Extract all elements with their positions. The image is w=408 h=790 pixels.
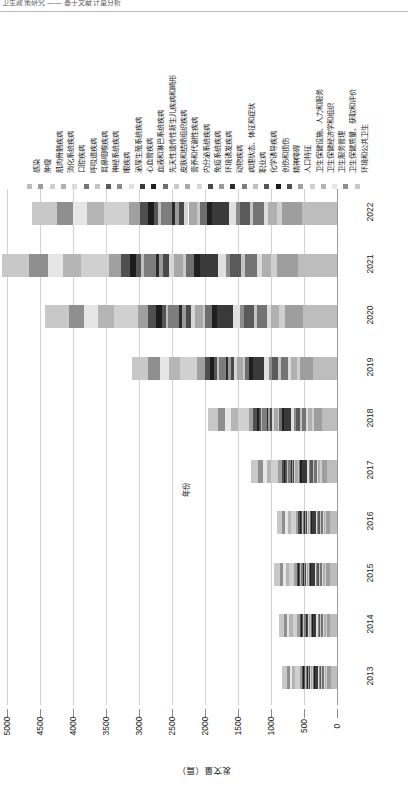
legend-item[interactable]: 先天性遗传性新生儿疾病和畸形 (162, 14, 173, 189)
bar-segment[interactable] (306, 614, 307, 637)
bar-segment[interactable] (310, 511, 311, 534)
legend-item[interactable]: 人口特征 (297, 14, 308, 189)
bar-segment[interactable] (267, 460, 272, 483)
bar-segment[interactable] (214, 357, 217, 380)
bar-segment[interactable] (307, 666, 308, 689)
bar-segment[interactable] (263, 460, 267, 483)
bar-segment[interactable] (322, 408, 337, 431)
bar-segment[interactable] (234, 357, 237, 380)
bar-segment[interactable] (316, 614, 317, 637)
bar-segment[interactable] (300, 666, 302, 689)
bar-segment[interactable] (323, 614, 324, 637)
bar-segment[interactable] (274, 563, 279, 586)
bar-segment[interactable] (254, 305, 257, 328)
bar-segment[interactable] (302, 666, 304, 689)
bar-segment[interactable] (312, 408, 314, 431)
bar-segment[interactable] (226, 357, 228, 380)
bar-segment[interactable] (297, 563, 299, 586)
bar-segment[interactable] (302, 511, 303, 534)
bar-segment[interactable] (277, 254, 298, 277)
bar-segment[interactable] (303, 614, 305, 637)
bar-segment[interactable] (175, 202, 179, 225)
bar-segment[interactable] (144, 254, 156, 277)
bar-segment[interactable] (251, 460, 258, 483)
bar-segment[interactable] (318, 460, 320, 483)
bar-segment[interactable] (301, 511, 302, 534)
bar-segment[interactable] (304, 563, 305, 586)
bar-segment[interactable] (320, 511, 321, 534)
bar-segment[interactable] (305, 666, 307, 689)
bar-segment[interactable] (284, 614, 287, 637)
bar-segment[interactable] (48, 254, 63, 277)
bar-segment[interactable] (302, 460, 307, 483)
bar-segment[interactable] (309, 666, 310, 689)
bar-segment[interactable] (217, 305, 233, 328)
bar-segment[interactable] (312, 614, 313, 637)
bar-segment[interactable] (268, 202, 276, 225)
bar-segment[interactable] (278, 357, 280, 380)
bar-segment[interactable] (302, 408, 307, 431)
legend-item[interactable]: 职业病 (252, 14, 263, 189)
bar-segment[interactable] (98, 305, 114, 328)
bar-segment[interactable] (307, 511, 308, 534)
bar-segment[interactable] (321, 614, 323, 637)
bar-segment[interactable] (303, 614, 304, 637)
bar-segment[interactable] (140, 202, 148, 225)
bar-segment[interactable] (288, 511, 291, 534)
bar-segment[interactable] (298, 460, 300, 483)
bar-segment[interactable] (303, 563, 304, 586)
bar-segment[interactable] (87, 202, 104, 225)
bar-segment[interactable] (287, 614, 290, 637)
bar-segment[interactable] (321, 666, 322, 689)
bar-segment[interactable] (300, 511, 301, 534)
bar-segment[interactable] (302, 511, 304, 534)
legend-item[interactable]: 口腔疾病 (71, 14, 82, 189)
bar-segment[interactable] (141, 254, 144, 277)
bar-segment[interactable] (291, 511, 296, 534)
bar-segment[interactable] (292, 666, 295, 689)
bar-segment[interactable] (81, 254, 108, 277)
bar-segment[interactable] (32, 202, 57, 225)
bar-segment[interactable] (287, 666, 290, 689)
bar-segment[interactable] (314, 460, 317, 483)
bar-segment[interactable] (258, 460, 263, 483)
bar-segment[interactable] (271, 305, 279, 328)
bar-segment[interactable] (166, 305, 169, 328)
bar-segment[interactable] (294, 563, 296, 586)
bar-segment[interactable] (319, 614, 321, 637)
bar-segment[interactable] (148, 202, 154, 225)
bar-segment[interactable] (326, 666, 327, 689)
bar-segment[interactable] (312, 511, 315, 534)
bar-segment[interactable] (264, 202, 268, 225)
bar-segment[interactable] (293, 614, 298, 637)
bar-segment[interactable] (318, 666, 319, 689)
bar-segment[interactable] (279, 408, 282, 431)
bar-segment[interactable] (180, 357, 197, 380)
bar-segment[interactable] (319, 666, 320, 689)
bar-segment[interactable] (310, 563, 311, 586)
bar-segment[interactable] (291, 460, 292, 483)
legend-item[interactable]: 免疫系统疾病 (207, 14, 218, 189)
bar-segment[interactable] (129, 202, 140, 225)
bar-segment[interactable] (287, 460, 290, 483)
bar-segment[interactable] (282, 408, 284, 431)
bar-segment[interactable] (183, 254, 186, 277)
bar-segment[interactable] (295, 460, 297, 483)
bar-segment[interactable] (136, 254, 141, 277)
bar-segment[interactable] (302, 202, 337, 225)
bar-segment[interactable] (2, 254, 29, 277)
bar-segment[interactable] (291, 460, 292, 483)
bar-segment[interactable] (228, 357, 231, 380)
bar-segment[interactable] (294, 408, 296, 431)
bar-segment[interactable] (310, 460, 313, 483)
bar-segment[interactable] (203, 305, 206, 328)
bar-segment[interactable] (267, 408, 268, 431)
bar-segment[interactable] (306, 563, 307, 586)
bar-segment[interactable] (172, 202, 175, 225)
bar-segment[interactable] (309, 511, 310, 534)
bar-segment[interactable] (245, 357, 250, 380)
bar-segment[interactable] (306, 408, 308, 431)
bar-segment[interactable] (322, 460, 327, 483)
bar-segment[interactable] (322, 563, 323, 586)
bar-segment[interactable] (69, 305, 85, 328)
